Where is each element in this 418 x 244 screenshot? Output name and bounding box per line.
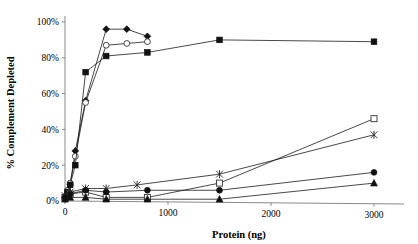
data-point-open-circle (145, 39, 151, 45)
chart-container: 0%20%40%60%80%100% 0100020003000 Protein… (0, 0, 418, 244)
y-tick-label: 100% (37, 17, 59, 27)
series-open-circle (62, 39, 150, 202)
y-axis-title: % Complement Depleted (5, 56, 16, 169)
x-tick-label: 3000 (365, 210, 384, 220)
x-tick-label: 0 (63, 207, 68, 217)
data-point-open-circle (124, 41, 130, 47)
series-line (65, 42, 147, 200)
data-point-open-circle (72, 153, 78, 159)
data-point-filled-square (83, 69, 89, 75)
data-point-filled-diamond (123, 26, 130, 33)
data-point-filled-square (145, 50, 151, 56)
data-point-filled-square (371, 39, 377, 45)
y-tick-labels: 0%20%40%60%80%100% (37, 17, 59, 206)
data-point-open-square (371, 116, 377, 122)
data-point-filled-diamond (103, 26, 110, 33)
data-point-filled-square (217, 37, 223, 43)
data-point-filled-square (73, 162, 79, 168)
y-tick-label: 60% (42, 89, 60, 99)
x-axis-title: Protein (ng) (212, 229, 266, 241)
x-tick-label: 1000 (159, 208, 178, 218)
y-tick-label: 20% (42, 161, 60, 171)
x-tick-label: 2000 (262, 209, 281, 219)
data-point-filled-circle (371, 169, 377, 175)
data-point-filled-square (103, 53, 109, 59)
data-series (62, 26, 378, 202)
series-filled-diamond (62, 26, 151, 201)
x-tick-labels: 0100020003000 (63, 207, 384, 220)
data-point-filled-square (67, 182, 73, 188)
data-point-filled-circle (103, 189, 109, 195)
data-point-open-circle (103, 42, 109, 48)
tick-marks (62, 22, 374, 207)
data-point-filled-triangle (371, 180, 378, 186)
y-tick-label: 40% (42, 125, 60, 135)
y-tick-label: 0% (46, 196, 59, 206)
data-point-open-square (217, 180, 223, 186)
line-chart: 0%20%40%60%80%100% 0100020003000 Protein… (0, 0, 418, 244)
data-point-x-cross (371, 131, 378, 139)
y-tick-label: 80% (42, 53, 60, 63)
data-point-filled-circle (217, 187, 223, 193)
data-point-filled-circle (145, 187, 151, 193)
data-point-open-circle (83, 100, 89, 106)
data-point-filled-circle (83, 187, 89, 193)
